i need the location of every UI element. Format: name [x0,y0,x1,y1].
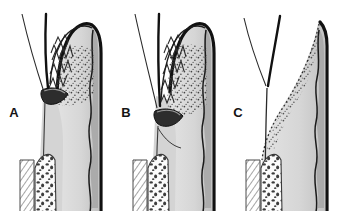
cortical-bone-a [20,160,34,212]
panel-a-label: A [9,105,19,120]
panel-b-label: B [121,105,130,120]
trabecular-bone-b [148,154,169,212]
cortical-bone-b [133,160,147,212]
dental-diagram-svg: A [0,0,341,219]
cortical-bone-c [246,160,260,212]
panel-c-label: C [233,105,243,120]
bottom-crop-strip [0,211,341,219]
figure-canvas: A [0,0,341,219]
trabecular-bone-a [35,154,56,212]
trabecular-bone-c [261,154,282,212]
